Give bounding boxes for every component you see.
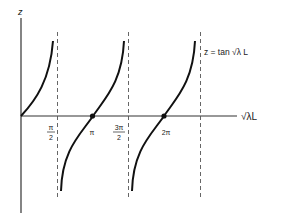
zero-point-2pi <box>161 113 166 118</box>
tan-branch-1 <box>21 41 53 116</box>
x-axis-label: √λL <box>241 111 257 122</box>
equation-label: z = tan √λ L <box>204 47 248 57</box>
tick-pi: π <box>90 129 95 136</box>
tan-plot: z √λL z = tan √λ L π 2 π 3π 2 2π <box>0 0 285 219</box>
tick-3pi-over-2-num: 3π <box>115 124 124 131</box>
tick-pi-over-2-den: 2 <box>49 134 53 141</box>
tick-2pi: 2π <box>162 129 171 136</box>
tick-3pi-over-2-den: 2 <box>117 134 121 141</box>
z-axis-label: z <box>17 7 23 17</box>
tick-pi-over-2-num: π <box>49 124 54 131</box>
zero-point-pi <box>90 113 95 118</box>
